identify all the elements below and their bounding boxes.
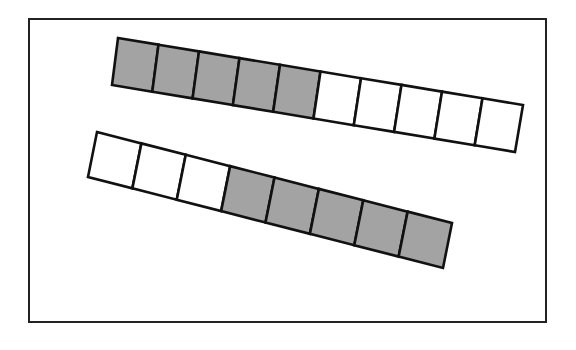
diagram-canvas xyxy=(0,0,576,350)
shaded-cell xyxy=(233,58,280,112)
bottom-strip xyxy=(88,132,452,268)
shaded-cell xyxy=(193,51,240,105)
shaded-cell xyxy=(112,38,159,92)
shaded-cell xyxy=(399,212,452,268)
shaded-cell xyxy=(152,45,199,99)
top-strip xyxy=(112,38,523,152)
unshaded-cell xyxy=(475,98,523,152)
